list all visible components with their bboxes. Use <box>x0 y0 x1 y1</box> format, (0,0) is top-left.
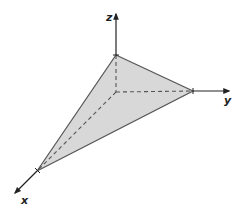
x-axis-label: x <box>20 194 29 207</box>
z-axis-label: z <box>105 11 113 24</box>
y-axis-label: y <box>224 94 232 107</box>
x-axis <box>15 171 37 193</box>
tetrahedron-diagram: z y x <box>0 0 240 209</box>
triangle-face <box>37 55 193 171</box>
